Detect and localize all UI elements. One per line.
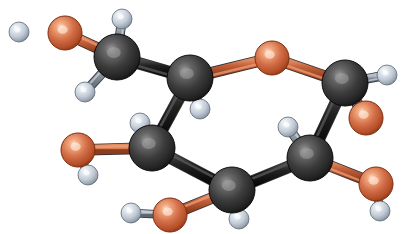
atom-h-h_o3: H on O3: [121, 203, 141, 223]
molecule-canvas: H on O6H on C6 upH on C6 down-leftH on C…: [0, 0, 409, 234]
atom-c-c4: C4: [129, 125, 175, 171]
atom-h-h_o6: H on O6: [9, 22, 29, 42]
atom-c-c1: C1: [322, 60, 368, 106]
atom-c-c2: C2: [287, 135, 333, 181]
atom-h-h6b: H on C6 down-left: [75, 82, 95, 102]
atom-o-o2: O2 hydroxyl: [359, 167, 393, 201]
atom-o-o3: O3 hydroxyl: [153, 198, 187, 232]
atom-o-o5: O5 ring: [255, 41, 289, 75]
atom-c-c3: C3: [209, 167, 255, 213]
atom-h-h5: H on C5: [190, 99, 210, 119]
atom-h-h_o4: H on O4: [78, 165, 98, 185]
molecule-figure: H on O6H on C6 upH on C6 down-leftH on C…: [0, 0, 409, 234]
atom-h-h6a: H on C6 up: [112, 9, 132, 29]
atom-o-o6: O6 hydroxyl: [48, 16, 82, 50]
atom-h-h2: H on C2: [278, 117, 298, 137]
atom-h-h1: H on C1: [377, 65, 397, 85]
atom-o-o1: O1 hydroxyl: [349, 101, 383, 135]
atom-o-o4: O4 hydroxyl: [61, 133, 95, 167]
atom-h-h_o2: H on O2: [370, 201, 390, 221]
atom-c-c6: C6: [94, 34, 140, 80]
atom-c-c5: C5: [167, 55, 213, 101]
